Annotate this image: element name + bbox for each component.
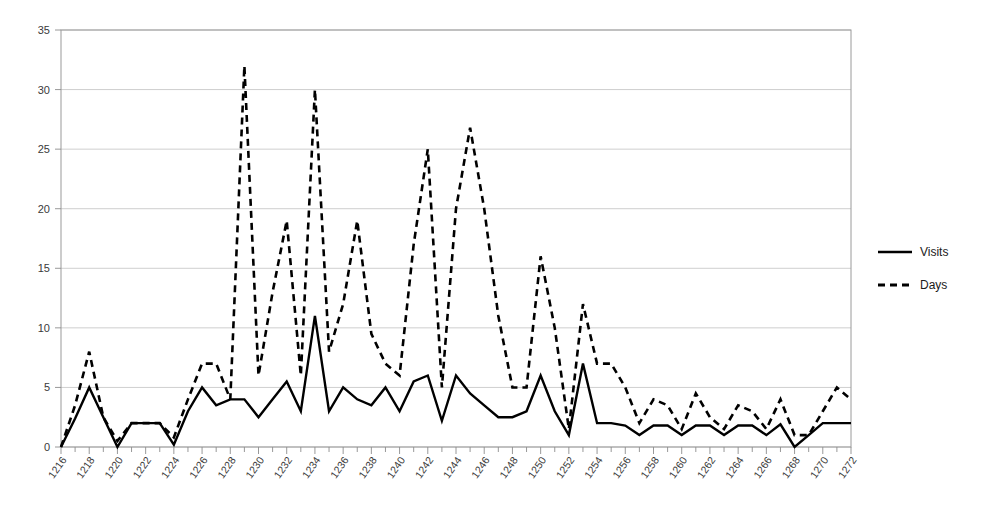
- legend-item-days[interactable]: Days: [878, 278, 947, 292]
- legend: VisitsDays: [878, 245, 948, 292]
- line-chart-svg: 05101520253035 1216121812201222122412261…: [0, 0, 996, 511]
- plot-border: [61, 30, 851, 447]
- plot-frame: [61, 30, 851, 447]
- y-axis-label: 10: [38, 322, 50, 334]
- x-axis-label: 1230: [243, 454, 266, 480]
- x-axis-label: 1266: [751, 454, 774, 480]
- y-axis-label: 25: [38, 143, 50, 155]
- y-axis-labels: 05101520253035: [38, 24, 50, 453]
- series-lines: [61, 66, 851, 447]
- y-axis-label: 5: [44, 381, 50, 393]
- x-axis-label: 1254: [581, 454, 604, 480]
- x-axis-label: 1234: [299, 454, 322, 480]
- x-axis-label: 1236: [328, 454, 351, 480]
- x-axis-label: 1256: [610, 454, 633, 480]
- x-axis-label: 1250: [525, 454, 548, 480]
- legend-label: Visits: [920, 245, 948, 259]
- x-axis-label: 1228: [215, 454, 238, 480]
- x-tickmarks: [61, 447, 851, 454]
- x-axis-label: 1272: [835, 454, 858, 480]
- y-axis-label: 15: [38, 262, 50, 274]
- legend-label: Days: [920, 278, 947, 292]
- x-axis-label: 1258: [638, 454, 661, 480]
- y-axis-label: 30: [38, 84, 50, 96]
- series-line-days: [61, 66, 851, 447]
- x-axis-label: 1248: [497, 454, 520, 480]
- x-axis-label: 1246: [469, 454, 492, 480]
- chart-container: 05101520253035 1216121812201222122412261…: [0, 0, 996, 511]
- y-axis-label: 0: [44, 441, 50, 453]
- x-axis-label: 1240: [384, 454, 407, 480]
- x-axis-label: 1264: [723, 454, 746, 480]
- x-axis-label: 1260: [666, 454, 689, 480]
- y-axis-label: 20: [38, 203, 50, 215]
- x-axis-label: 1222: [130, 454, 153, 480]
- x-axis-label: 1252: [553, 454, 576, 480]
- legend-item-visits[interactable]: Visits: [878, 245, 948, 259]
- x-axis-label: 1244: [440, 454, 463, 480]
- x-axis-label: 1220: [102, 454, 125, 480]
- x-axis-label: 1242: [412, 454, 435, 480]
- x-axis-label: 1226: [186, 454, 209, 480]
- y-tickmarks: [55, 30, 61, 447]
- series-line-visits: [61, 316, 851, 447]
- x-axis-label: 1270: [807, 454, 830, 480]
- x-axis-label: 1238: [356, 454, 379, 480]
- x-axis-label: 1224: [158, 454, 181, 480]
- x-axis-label: 1216: [45, 454, 68, 480]
- x-axis-label: 1262: [694, 454, 717, 480]
- x-axis-label: 1268: [779, 454, 802, 480]
- x-axis-labels: 1216121812201222122412261228123012321234…: [45, 454, 858, 480]
- x-axis-label: 1232: [271, 454, 294, 480]
- gridlines: [61, 30, 851, 447]
- y-axis-label: 35: [38, 24, 50, 36]
- x-axis-label: 1218: [74, 454, 97, 480]
